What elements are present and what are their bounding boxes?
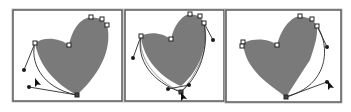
- anchor-square-icon[interactable]: [310, 17, 314, 21]
- anchor-square-icon[interactable]: [202, 21, 206, 25]
- anchor-square-icon[interactable]: [241, 40, 245, 44]
- anchor-square-icon[interactable]: [75, 93, 79, 97]
- panel-1: [12, 9, 123, 102]
- anchor-square-icon[interactable]: [105, 23, 109, 27]
- anchor-square-icon[interactable]: [139, 34, 143, 38]
- handle-dot-icon[interactable]: [22, 68, 26, 72]
- handle-dot-icon[interactable]: [131, 56, 135, 60]
- anchor-square-icon[interactable]: [169, 37, 173, 41]
- anchor-square-icon[interactable]: [315, 24, 319, 28]
- handle-dot-icon[interactable]: [211, 38, 215, 42]
- handle-dot-icon[interactable]: [187, 83, 191, 87]
- handle-dot-icon[interactable]: [325, 45, 329, 49]
- anchor-square-icon[interactable]: [275, 43, 279, 47]
- handle-dot-icon[interactable]: [166, 87, 170, 91]
- handle-dot-icon[interactable]: [27, 85, 31, 89]
- anchor-square-icon[interactable]: [67, 43, 71, 47]
- anchor-square-icon[interactable]: [284, 95, 288, 99]
- anchor-square-icon[interactable]: [240, 44, 244, 48]
- anchor-square-icon[interactable]: [298, 14, 302, 18]
- anchor-square-icon[interactable]: [198, 14, 202, 18]
- panel-3: [225, 9, 342, 103]
- anchor-square-icon[interactable]: [33, 41, 37, 45]
- illustration-stage: [0, 0, 351, 112]
- panel-2: [124, 9, 225, 102]
- anchor-square-icon[interactable]: [100, 17, 104, 21]
- anchor-square-icon[interactable]: [89, 15, 93, 19]
- anchor-square-icon[interactable]: [188, 12, 192, 16]
